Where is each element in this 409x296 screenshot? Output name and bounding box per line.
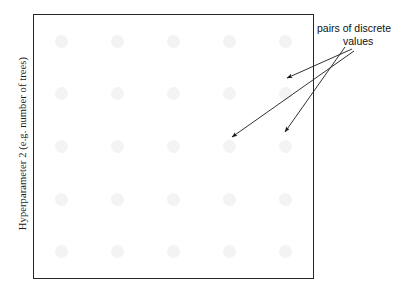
- grid-sample-point: [55, 140, 68, 153]
- grid-sample-point: [111, 193, 124, 206]
- annotation-line-1: pairs of discrete: [317, 22, 409, 35]
- grid-sample-point: [223, 87, 236, 100]
- grid-sample-point: [167, 193, 180, 206]
- grid-sample-point: [279, 35, 292, 48]
- grid-sample-point: [279, 87, 292, 100]
- grid-sample-point: [111, 140, 124, 153]
- grid-sample-point: [111, 245, 124, 258]
- grid-sample-point: [223, 35, 236, 48]
- annotation-line-2: values: [317, 35, 409, 48]
- grid-sample-point: [279, 193, 292, 206]
- grid-sample-point: [55, 87, 68, 100]
- grid-sample-point: [167, 140, 180, 153]
- grid-sample-point: [55, 193, 68, 206]
- grid-search-figure: Hyperparameter 2 (e.g. number of trees) …: [0, 0, 409, 296]
- grid-dot-layer: [34, 15, 313, 278]
- grid-sample-point: [279, 245, 292, 258]
- grid-sample-point: [55, 35, 68, 48]
- grid-sample-point: [223, 193, 236, 206]
- grid-sample-point: [167, 87, 180, 100]
- grid-sample-point: [55, 245, 68, 258]
- grid-sample-point: [167, 245, 180, 258]
- grid-sample-point: [279, 140, 292, 153]
- grid-sample-point: [223, 245, 236, 258]
- grid-sample-point: [167, 35, 180, 48]
- y-axis-label: Hyperparameter 2 (e.g. number of trees): [17, 14, 28, 274]
- grid-sample-point: [111, 35, 124, 48]
- plot-area: [33, 14, 314, 279]
- grid-sample-point: [111, 87, 124, 100]
- grid-sample-point: [223, 140, 236, 153]
- annotation-label: pairs of discrete values: [317, 22, 409, 47]
